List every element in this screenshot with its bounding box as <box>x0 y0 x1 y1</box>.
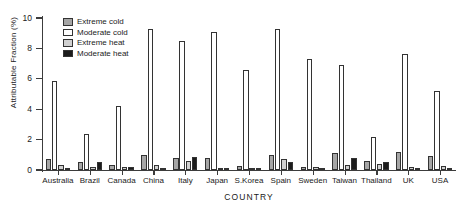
bar-extreme-heat <box>281 159 286 170</box>
bar-extreme-cold <box>78 162 83 170</box>
y-axis-tick <box>36 109 42 110</box>
bar-extreme-heat <box>122 167 127 170</box>
legend-swatch-icon <box>63 18 73 26</box>
bar-extreme-cold <box>46 159 51 170</box>
x-axis-category-label: Spain <box>271 176 291 185</box>
x-axis-category-label: Italy <box>178 176 193 185</box>
legend-item: Extreme cold <box>63 17 129 27</box>
bar-group <box>428 18 452 170</box>
y-axis-tick-label: 8 <box>6 44 32 53</box>
bar-extreme-cold <box>205 158 210 170</box>
x-axis-category-label: S.Korea <box>235 176 264 185</box>
y-axis-tick <box>36 48 42 49</box>
x-axis-title: COUNTRY <box>42 192 456 202</box>
x-axis-category-label: Canada <box>108 176 136 185</box>
legend-item-label: Extreme heat <box>77 39 125 47</box>
chart-legend: Extreme coldModerate coldExtreme heatMod… <box>63 17 129 59</box>
bar-extreme-heat <box>58 165 63 170</box>
legend-swatch-icon <box>63 29 73 37</box>
bar-moderate-cold <box>275 29 280 170</box>
bar-moderate-heat <box>192 157 197 170</box>
x-axis-category-label: Brazil <box>80 176 100 185</box>
x-axis-tick <box>249 171 250 175</box>
bar-group <box>269 18 293 170</box>
legend-item: Moderate heat <box>63 49 129 59</box>
y-axis-tick-label: 6 <box>6 74 32 83</box>
x-axis-tick <box>345 171 346 175</box>
x-axis-tick <box>376 171 377 175</box>
bar-extreme-cold <box>109 165 114 170</box>
bar-moderate-heat <box>224 168 229 170</box>
bar-moderate-heat <box>160 168 165 170</box>
x-axis-category-label: UK <box>403 176 414 185</box>
bar-extreme-heat <box>409 167 414 170</box>
bar-extreme-heat <box>249 168 254 170</box>
x-axis-tick <box>281 171 282 175</box>
bar-extreme-heat <box>90 167 95 170</box>
bar-extreme-heat <box>441 166 446 170</box>
y-axis-tick-label: 0 <box>6 166 32 175</box>
bar-moderate-heat <box>415 168 420 170</box>
bar-extreme-cold <box>173 158 178 170</box>
bar-extreme-heat <box>218 168 223 170</box>
bar-group <box>173 18 197 170</box>
y-axis-tick-label: 10 <box>6 14 32 23</box>
y-axis-tick <box>36 139 42 140</box>
bar-moderate-heat <box>65 168 70 170</box>
bar-moderate-cold <box>339 65 344 170</box>
bar-extreme-cold <box>428 156 433 170</box>
bar-extreme-heat <box>313 167 318 170</box>
x-axis-tick <box>313 171 314 175</box>
bar-extreme-heat <box>154 165 159 170</box>
legend-item-label: Extreme cold <box>77 18 124 26</box>
bar-extreme-cold <box>141 155 146 170</box>
bar-group <box>396 18 420 170</box>
x-axis-tick <box>90 171 91 175</box>
bar-group <box>237 18 261 170</box>
x-axis-category-label: Japan <box>206 176 228 185</box>
x-axis-tick <box>440 171 441 175</box>
y-axis-tick <box>36 17 42 18</box>
bar-moderate-heat <box>97 162 102 170</box>
x-axis-category-label: Sweden <box>298 176 327 185</box>
x-axis-tick <box>217 171 218 175</box>
bar-moderate-cold <box>179 41 184 170</box>
bar-extreme-cold <box>332 153 337 170</box>
legend-item: Extreme heat <box>63 38 129 48</box>
x-axis-category-label: USA <box>432 176 448 185</box>
x-axis-category-label: Australia <box>42 176 73 185</box>
bar-extreme-cold <box>237 166 242 170</box>
bar-group <box>364 18 388 170</box>
bar-extreme-cold <box>396 152 401 170</box>
attributable-fraction-bar-chart: Attributable Fraction (%) 0246810 Austra… <box>0 0 465 211</box>
legend-item-label: Moderate heat <box>77 50 129 58</box>
legend-item-label: Moderate cold <box>77 29 128 37</box>
bar-moderate-cold <box>52 81 57 170</box>
bar-moderate-heat <box>288 162 293 170</box>
legend-swatch-icon <box>63 39 73 47</box>
bar-extreme-cold <box>301 167 306 170</box>
bar-moderate-heat <box>319 168 324 170</box>
x-axis-category-label: Taiwan <box>332 176 357 185</box>
legend-swatch-icon <box>63 50 73 58</box>
bar-moderate-cold <box>434 91 439 170</box>
bar-group <box>332 18 356 170</box>
bar-extreme-cold <box>364 161 369 170</box>
x-axis-tick <box>408 171 409 175</box>
bar-moderate-cold <box>371 137 376 170</box>
legend-item: Moderate cold <box>63 28 129 38</box>
y-axis-tick-label: 4 <box>6 105 32 114</box>
x-axis-tick <box>153 171 154 175</box>
bar-extreme-heat <box>345 165 350 170</box>
bar-moderate-cold <box>148 29 153 170</box>
y-axis-line <box>42 16 43 172</box>
x-axis-tick <box>122 171 123 175</box>
bar-moderate-cold <box>307 59 312 170</box>
y-axis-tick-label: 2 <box>6 135 32 144</box>
bar-moderate-cold <box>243 70 248 170</box>
bar-moderate-cold <box>211 32 216 170</box>
bar-moderate-cold <box>84 134 89 170</box>
x-axis-category-label: China <box>143 176 164 185</box>
bar-moderate-heat <box>128 167 133 170</box>
x-axis-tick <box>185 171 186 175</box>
